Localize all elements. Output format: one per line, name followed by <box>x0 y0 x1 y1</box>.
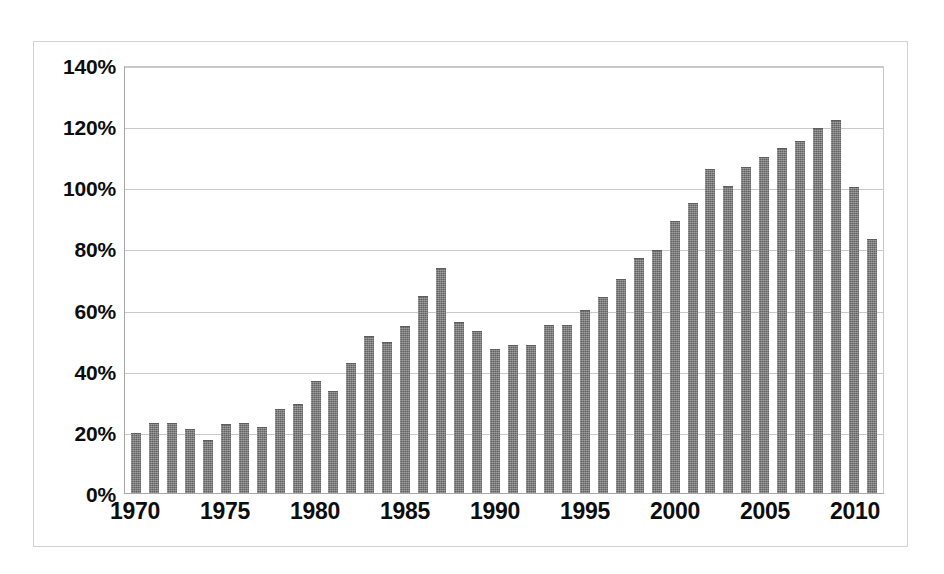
bar-2009 <box>831 120 841 493</box>
bar-slot <box>271 67 289 493</box>
x-tick-label: 1980 <box>290 500 340 523</box>
bar-slot <box>127 67 145 493</box>
y-tick-label: 120% <box>34 117 116 138</box>
bar-slot <box>827 67 845 493</box>
bar-slot <box>522 67 540 493</box>
bar-slot <box>737 67 755 493</box>
y-tick-label: 20% <box>34 423 116 444</box>
bar-1985 <box>400 326 410 493</box>
bar-1992 <box>526 345 536 493</box>
bar-slot <box>432 67 450 493</box>
bar-slot <box>719 67 737 493</box>
bar-slot <box>307 67 325 493</box>
bar-slot <box>558 67 576 493</box>
bar-slot <box>360 67 378 493</box>
bar-1974 <box>203 440 213 494</box>
bar-1998 <box>634 258 644 493</box>
bar-slot <box>576 67 594 493</box>
bar-2011 <box>867 239 877 493</box>
bar-slot <box>755 67 773 493</box>
x-tick-label: 2000 <box>650 500 700 523</box>
bar-1991 <box>508 345 518 493</box>
bar-1980 <box>311 381 321 493</box>
bar-1976 <box>239 423 249 493</box>
bar-slot <box>773 67 791 493</box>
bar-1986 <box>418 296 428 493</box>
bar-1977 <box>257 427 267 493</box>
y-axis-tick-labels: 0%20%40%60%80%100%120%140% <box>26 66 116 494</box>
bar-1973 <box>185 429 195 493</box>
bar-slot <box>396 67 414 493</box>
bar-1981 <box>328 391 338 493</box>
bar-1988 <box>454 322 464 493</box>
bar-2005 <box>759 157 769 493</box>
bar-slot <box>504 67 522 493</box>
x-tick-label: 2005 <box>740 500 790 523</box>
bar-2008 <box>813 128 823 493</box>
bar-1995 <box>580 310 590 493</box>
bar-1975 <box>221 424 231 493</box>
bar-slot <box>199 67 217 493</box>
x-tick-label: 1995 <box>560 500 610 523</box>
bar-slot <box>253 67 271 493</box>
x-axis-tick-labels: 197019751980198519901995200020052010 <box>124 500 884 540</box>
bar-slot <box>181 67 199 493</box>
bar-1970 <box>131 433 141 493</box>
bar-1979 <box>293 404 303 493</box>
bar-slot <box>791 67 809 493</box>
bar-1983 <box>364 336 374 493</box>
bar-1996 <box>598 297 608 493</box>
bar-2004 <box>741 167 751 493</box>
x-tick-label: 1985 <box>380 500 430 523</box>
bar-slot <box>863 67 881 493</box>
bar-2001 <box>688 203 698 493</box>
y-tick-label: 100% <box>34 178 116 199</box>
bar-1984 <box>382 342 392 493</box>
y-tick-label: 0% <box>34 484 116 505</box>
bar-2002 <box>705 169 715 493</box>
bar-slot <box>702 67 720 493</box>
plot-area <box>124 66 884 494</box>
bar-2000 <box>670 221 680 493</box>
bar-1994 <box>562 325 572 493</box>
bar-slot <box>540 67 558 493</box>
bar-slot <box>468 67 486 493</box>
bar-1989 <box>472 331 482 493</box>
bar-slot <box>217 67 235 493</box>
x-tick-label: 1990 <box>470 500 520 523</box>
bar-1987 <box>436 268 446 493</box>
bar-1993 <box>544 325 554 493</box>
x-tick-label: 1975 <box>200 500 250 523</box>
bar-slot <box>486 67 504 493</box>
bar-slot <box>809 67 827 493</box>
x-tick-label: 1970 <box>110 500 160 523</box>
bar-slot <box>378 67 396 493</box>
bar-slot <box>845 67 863 493</box>
bar-slot <box>666 67 684 493</box>
bar-2007 <box>795 141 805 493</box>
y-tick-label: 60% <box>34 301 116 322</box>
bar-1997 <box>616 279 626 493</box>
y-tick-label: 140% <box>34 56 116 77</box>
bar-1982 <box>346 363 356 493</box>
bar-slot <box>684 67 702 493</box>
y-tick-label: 40% <box>34 362 116 383</box>
bar-1978 <box>275 409 285 493</box>
bar-slot <box>648 67 666 493</box>
bar-2010 <box>849 187 859 493</box>
y-tick-label: 80% <box>34 239 116 260</box>
bar-1972 <box>167 423 177 493</box>
bar-1971 <box>149 423 159 493</box>
bar-slot <box>450 67 468 493</box>
bar-slot <box>630 67 648 493</box>
bar-2006 <box>777 148 787 493</box>
bar-1990 <box>490 349 500 493</box>
bar-slot <box>324 67 342 493</box>
x-tick-label: 2010 <box>830 500 880 523</box>
bar-1999 <box>652 250 662 493</box>
bar-slot <box>289 67 307 493</box>
bar-2003 <box>723 186 733 493</box>
bar-series <box>125 67 883 493</box>
bar-slot <box>145 67 163 493</box>
bar-slot <box>235 67 253 493</box>
